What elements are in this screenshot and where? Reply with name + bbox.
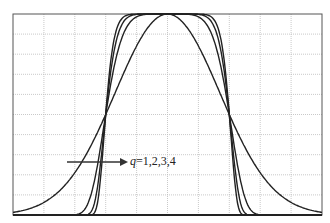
- grid: [13, 14, 322, 215]
- chart: [0, 0, 330, 223]
- q-annotation: q=1,2,3,4: [130, 154, 176, 169]
